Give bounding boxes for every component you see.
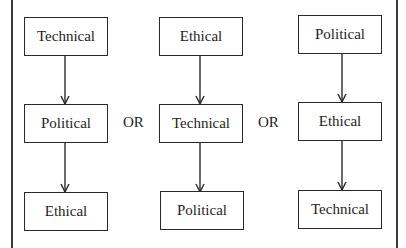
box-label: Technical xyxy=(172,115,230,132)
box-label: Political xyxy=(177,202,227,219)
arrow-icon xyxy=(61,56,69,104)
sequence-1-step-3-box: Ethical xyxy=(24,192,108,231)
sequence-3-step-2-box: Ethical xyxy=(298,102,382,141)
arrow-icon xyxy=(338,54,346,102)
sequence-2-step-2-box: Technical xyxy=(159,104,243,143)
arrow-icon xyxy=(196,56,204,104)
or-separator-1: OR xyxy=(123,114,144,131)
frame-left-border xyxy=(11,0,13,248)
arrow-icon xyxy=(61,143,69,192)
sequence-2-step-1-box: Ethical xyxy=(159,17,243,56)
box-label: Political xyxy=(41,115,91,132)
box-label: Ethical xyxy=(180,28,222,45)
frame-right-border xyxy=(396,0,398,248)
sequence-1-step-2-box: Political xyxy=(24,104,108,143)
sequence-2-step-3-box: Political xyxy=(160,191,244,230)
arrow-icon xyxy=(196,142,204,192)
sequence-1-step-1-box: Technical xyxy=(24,17,108,56)
box-label: Technical xyxy=(37,28,95,45)
sequence-3-step-1-box: Political xyxy=(298,15,382,54)
box-label: Ethical xyxy=(319,113,361,130)
box-label: Ethical xyxy=(45,203,87,220)
box-label: Political xyxy=(315,26,365,43)
sequence-3-step-3-box: Technical xyxy=(298,190,382,229)
or-separator-2: OR xyxy=(258,114,279,131)
arrow-icon xyxy=(338,140,346,190)
box-label: Technical xyxy=(311,201,369,218)
